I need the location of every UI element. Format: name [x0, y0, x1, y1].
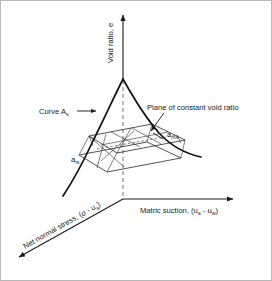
plane-label-leader-arrow	[151, 113, 164, 131]
void-ratio-constitutive-surface-diagram: Void ratio, e Matric suction, (ua - uw) …	[1, 1, 272, 281]
mesh-grid-u1	[111, 132, 140, 147]
curve-a-label: Curve As	[39, 107, 69, 117]
a-ts-label: ats	[71, 155, 80, 165]
figure-container: Void ratio, e Matric suction, (ua - uw) …	[0, 0, 272, 281]
constant-void-ratio-plane-lower	[79, 142, 181, 172]
plane-of-constant-void-ratio-label: Plane of constant void ratio	[147, 103, 239, 112]
mesh-grid-v1	[101, 132, 168, 145]
mesh-hidden-edge-dashed	[97, 135, 177, 149]
mesh-edge-bottom	[107, 153, 117, 172]
mesh-diagonal-1	[89, 136, 124, 167]
void-ratio-axis-label: Void ratio, e	[106, 23, 115, 63]
mesh-edge-right	[181, 140, 185, 158]
curve-right-boundary	[123, 79, 201, 157]
a-ms-label: ams	[167, 130, 179, 140]
matric-suction-axis-label: Matric suction, (ua - uw)	[140, 206, 219, 216]
curve-as-left-boundary	[63, 79, 123, 196]
net-normal-stress-axis-label: Net normal stress, (σ - ua)	[22, 200, 103, 252]
net-normal-stress-axis-line	[19, 199, 123, 257]
mesh-diagonal-4	[117, 128, 131, 153]
